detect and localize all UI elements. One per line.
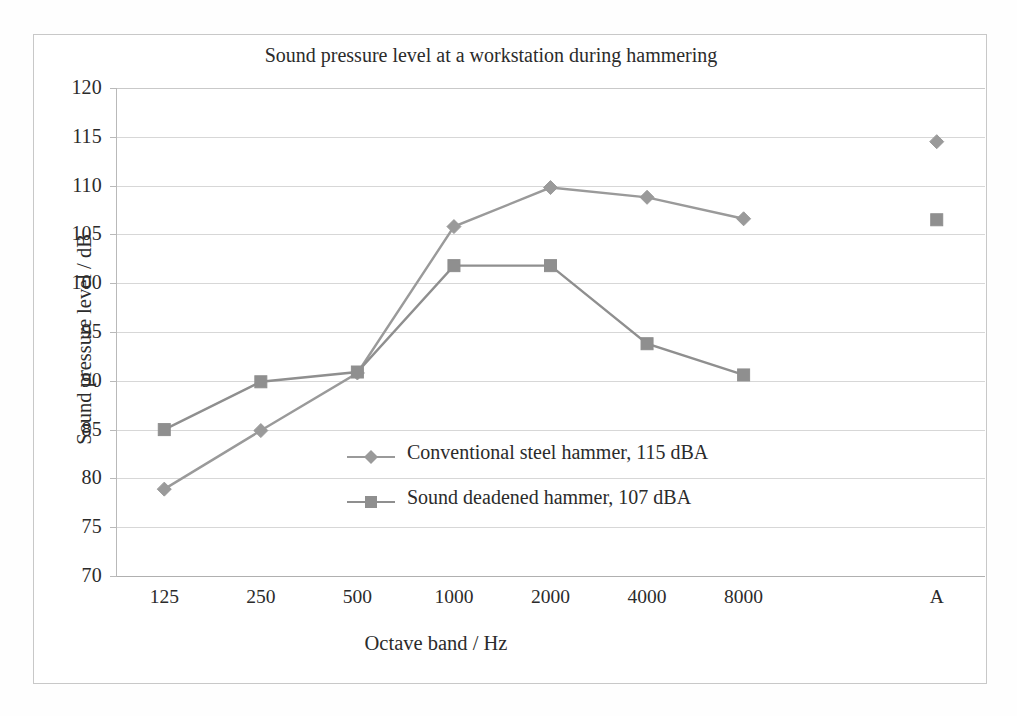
- data-point-square: [545, 260, 557, 272]
- data-point-square: [351, 366, 363, 378]
- data-point-square: [641, 338, 653, 350]
- legend-label: Conventional steel hammer, 115 dBA: [407, 441, 708, 464]
- legend-label: Sound deadened hammer, 107 dBA: [407, 486, 691, 509]
- data-point-square: [738, 369, 750, 381]
- data-point-square: [931, 214, 943, 226]
- series-layer: [0, 0, 1017, 716]
- legend-square-icon: [345, 495, 397, 507]
- data-point-diamond: [544, 181, 558, 195]
- chart-legend: Conventional steel hammer, 115 dBASound …: [345, 441, 775, 531]
- legend-diamond-icon: [345, 450, 397, 462]
- legend-item: Conventional steel hammer, 115 dBA: [345, 441, 775, 486]
- data-point-diamond: [737, 212, 751, 226]
- chart-page: Sound pressure level at a workstation du…: [0, 0, 1017, 716]
- series-2: [158, 214, 942, 436]
- legend-item: Sound deadened hammer, 107 dBA: [345, 486, 775, 531]
- series-line: [164, 266, 743, 430]
- data-point-diamond: [640, 190, 654, 204]
- data-point-square: [448, 260, 460, 272]
- data-point-diamond: [447, 220, 461, 234]
- data-point-square: [158, 424, 170, 436]
- data-point-diamond: [930, 135, 944, 149]
- data-point-diamond: [254, 424, 268, 438]
- data-point-diamond: [157, 482, 171, 496]
- data-point-square: [255, 376, 267, 388]
